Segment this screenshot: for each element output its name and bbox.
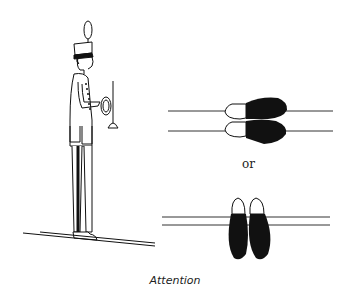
figure-caption: Attention	[0, 274, 350, 287]
band-member-illustration	[23, 21, 155, 246]
or-separator: or	[242, 157, 255, 171]
feet-horizontal-diagram	[168, 98, 333, 144]
attention-figure: or Attention	[0, 0, 350, 299]
feet-vertical-diagram	[162, 198, 330, 259]
illustration	[0, 0, 350, 299]
